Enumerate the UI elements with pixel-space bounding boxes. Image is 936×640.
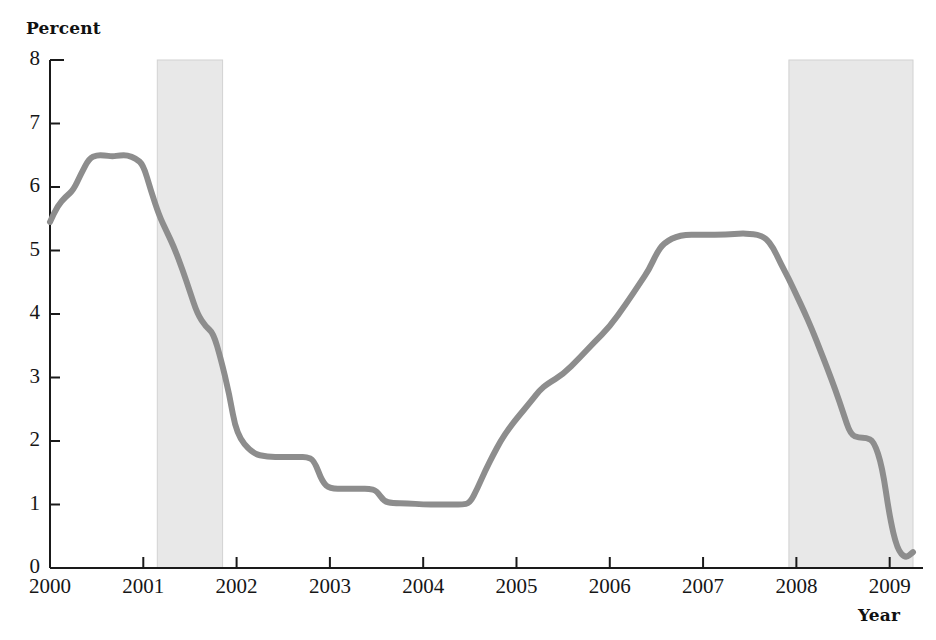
- x-tick-label-2005: 2005: [471, 574, 561, 599]
- y-tick-label-3: 3: [10, 364, 40, 389]
- x-tick-label-2004: 2004: [378, 574, 468, 599]
- x-tick-label-2008: 2008: [751, 574, 841, 599]
- x-tick-label-2000: 2000: [5, 574, 95, 599]
- y-tick-label-5: 5: [10, 237, 40, 262]
- y-tick-label-1: 1: [10, 491, 40, 516]
- x-tick-label-2009: 2009: [845, 574, 935, 599]
- x-tick-label-2006: 2006: [565, 574, 655, 599]
- chart-figure: Percent Year 012345678200020012002200320…: [0, 0, 936, 640]
- x-tick-label-2003: 2003: [285, 574, 375, 599]
- y-tick-label-7: 7: [10, 110, 40, 135]
- y-tick-label-2: 2: [10, 427, 40, 452]
- shaded-band-recession-2001: [157, 60, 222, 568]
- y-tick-label-8: 8: [10, 46, 40, 71]
- y-tick-label-4: 4: [10, 300, 40, 325]
- x-tick-label-2007: 2007: [658, 574, 748, 599]
- y-tick-label-6: 6: [10, 173, 40, 198]
- x-tick-label-2001: 2001: [98, 574, 188, 599]
- x-tick-label-2002: 2002: [192, 574, 282, 599]
- line-plot: [0, 0, 936, 640]
